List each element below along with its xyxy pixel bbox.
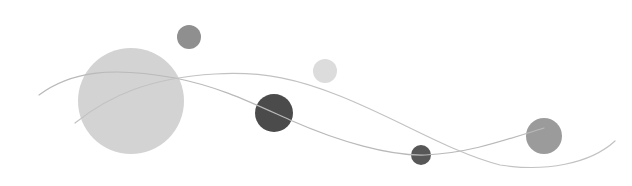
large-light-circle	[78, 48, 184, 154]
small-gray-circle-top	[177, 25, 201, 49]
abstract-circles-and-waves	[0, 0, 632, 186]
decorative-graphic	[0, 0, 632, 186]
right-gray-circle	[526, 118, 562, 154]
small-light-circle	[313, 59, 337, 83]
